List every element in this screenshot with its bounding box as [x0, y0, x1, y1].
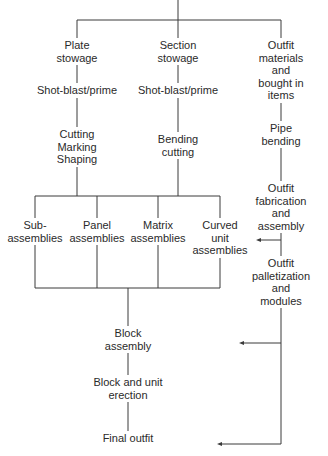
node-plate-shotblast: Shot-blast/prime	[37, 83, 117, 98]
node-final-outfit: Final outfit	[103, 431, 154, 446]
node-section-stowage: Section stowage	[158, 38, 199, 65]
node-bending-cutting: Bending cutting	[158, 132, 198, 159]
node-block-assembly: Block assembly	[105, 326, 151, 353]
node-plate-stowage: Plate stowage	[57, 38, 98, 65]
node-sub-assemblies: Sub- assemblies	[7, 218, 62, 245]
node-panel-assemblies: Panel assemblies	[69, 218, 124, 245]
node-outfit-materials: Outfit materials and bought in items	[258, 38, 305, 103]
node-matrix-assemblies: Matrix assemblies	[130, 218, 185, 245]
node-cutting-marking-shaping: Cutting Marking Shaping	[57, 127, 97, 167]
node-section-shotblast: Shot-blast/prime	[138, 83, 218, 98]
node-outfit-palletization: Outfit palletization and modules	[252, 256, 310, 308]
node-curved-unit-assemblies: Curved unit assemblies	[192, 218, 247, 258]
node-pipe-bending: Pipe bending	[258, 121, 305, 148]
node-block-unit-erection: Block and unit erection	[93, 375, 162, 402]
node-outfit-fabrication: Outfit fabrication and assembly	[256, 181, 307, 233]
